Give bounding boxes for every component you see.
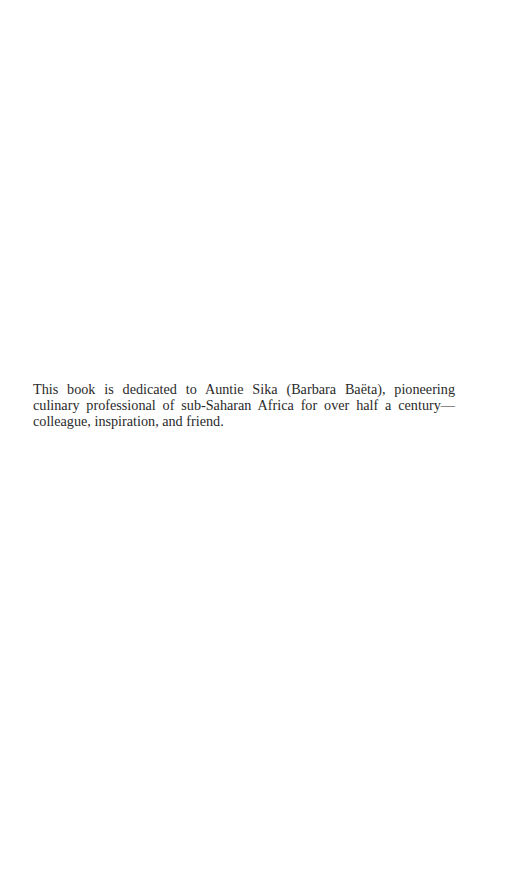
book-page: This book is dedicated to Auntie Sika (B… <box>0 0 529 880</box>
dedication-line-2: culinary professional of sub-Saharan Afr… <box>33 397 455 413</box>
dedication-line-1: This book is dedicated to Auntie Sika (B… <box>33 381 455 397</box>
dedication-line-3: colleague, inspiration, and friend. <box>33 413 455 429</box>
dedication-paragraph: This book is dedicated to Auntie Sika (B… <box>33 381 455 429</box>
